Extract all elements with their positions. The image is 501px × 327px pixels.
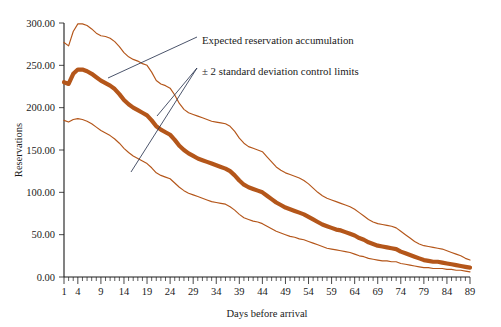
expected-reservation-accumulation-label: Expected reservation accumulation xyxy=(202,34,354,46)
x-tick-label: 74 xyxy=(396,286,407,297)
chart-canvas: 0.0050.00100.00150.00200.00250.00300.00 … xyxy=(0,0,501,327)
x-tick-label: 34 xyxy=(211,286,222,297)
x-tick-label: 1 xyxy=(61,286,66,297)
x-axis-title: Days before arrival xyxy=(226,308,307,319)
data-curves xyxy=(64,24,470,272)
x-tick-label: 59 xyxy=(326,286,337,297)
x-tick-label: 44 xyxy=(257,286,268,297)
x-tick-label: 14 xyxy=(119,286,130,297)
x-tick-label: 49 xyxy=(280,286,291,297)
x-tick-label: 79 xyxy=(419,286,430,297)
x-tick-label: 89 xyxy=(465,286,476,297)
y-tick-label: 300.00 xyxy=(26,18,55,29)
reservation-accumulation-chart: 0.0050.00100.00150.00200.00250.00300.00 … xyxy=(0,0,501,327)
y-tick-label: 150.00 xyxy=(26,145,55,156)
x-tick-label: 29 xyxy=(188,286,199,297)
x-tick-label: 64 xyxy=(349,286,360,297)
y-axis-title: Reservations xyxy=(13,123,24,177)
y-tick-label: 200.00 xyxy=(26,102,55,113)
control-limits-leader-2 xyxy=(131,68,197,172)
control-limit-curve xyxy=(64,24,470,260)
x-tick-label: 24 xyxy=(165,286,176,297)
x-tick-label: 69 xyxy=(372,286,383,297)
control-limits-leader xyxy=(157,68,197,116)
x-tick-label: 19 xyxy=(142,286,153,297)
control-limits-label: ± 2 standard deviation control limits xyxy=(202,65,359,77)
y-tick-label: 50.00 xyxy=(31,229,55,240)
chart-annotations: Expected reservation accumulation± 2 sta… xyxy=(108,34,359,172)
y-tick-label: 100.00 xyxy=(26,187,55,198)
x-tick-label: 84 xyxy=(442,286,453,297)
x-tick-label: 9 xyxy=(98,286,103,297)
expected-reservation-accumulation-leader xyxy=(108,37,197,78)
y-tick-label: 0.00 xyxy=(37,272,55,283)
y-tick-label: 250.00 xyxy=(26,60,55,71)
x-tick-label: 54 xyxy=(303,286,314,297)
x-axis-ticks: 14914192429343944495459646974798489 xyxy=(61,277,475,297)
y-axis-ticks: 0.0050.00100.00150.00200.00250.00300.00 xyxy=(26,18,64,283)
x-tick-label: 4 xyxy=(75,286,81,297)
x-tick-label: 39 xyxy=(234,286,245,297)
